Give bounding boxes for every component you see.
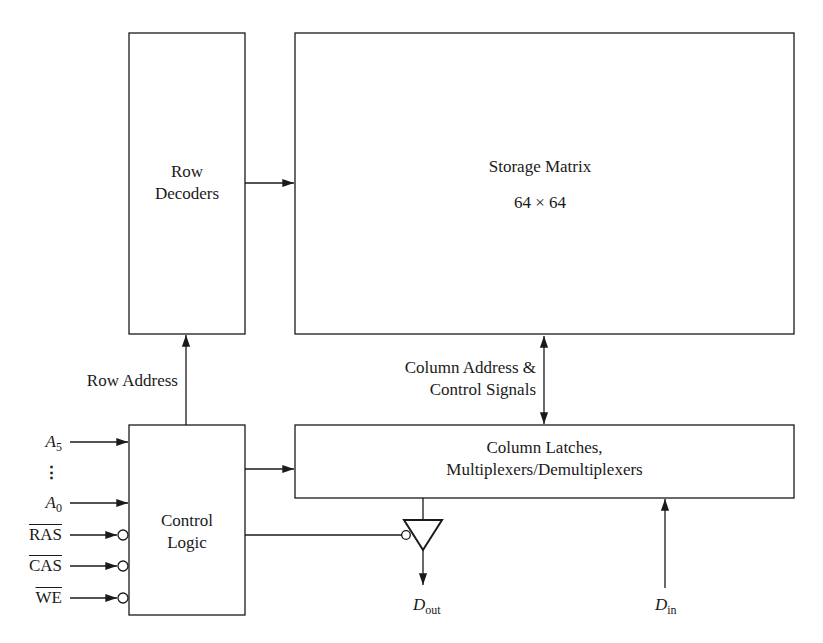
column-latches-line2: Multiplexers/Demultiplexers [295,459,794,481]
control-logic-line2: Logic [129,532,245,554]
ellipsis-label: ⋮ [10,462,60,484]
control-logic-line1: Control [129,510,245,532]
column-latches-line1: Column Latches, [295,437,794,459]
cas-inversion-bubble [118,561,128,571]
row-decoders-line1: Row [129,161,245,183]
a0-label: A0 [10,492,62,519]
diagram-canvas [0,0,823,643]
a5-label: A5 [10,431,62,458]
column-address-label: Column Address & Control Signals [340,357,536,401]
storage-matrix-label: Storage Matrix 64 × 64 [420,156,660,214]
column-address-line1: Column Address & [340,357,536,379]
we-label: WE [10,587,62,609]
din-label: Din [655,594,677,621]
we-inversion-bubble [118,593,128,603]
column-address-line2: Control Signals [340,379,536,401]
dout-label: Dout [413,594,441,621]
cas-label: CAS [10,555,62,577]
storage-matrix-size: 64 × 64 [420,192,660,214]
ras-inversion-bubble [118,530,128,540]
output-enable-bubble [402,531,411,540]
control-logic-label: Control Logic [129,510,245,554]
ras-label: RAS [10,524,62,546]
storage-matrix-title: Storage Matrix [420,156,660,178]
column-latches-label: Column Latches, Multiplexers/Demultiplex… [295,437,794,481]
row-decoders-line2: Decoders [129,183,245,205]
row-decoders-label: Row Decoders [129,161,245,205]
row-address-label: Row Address [40,370,178,392]
